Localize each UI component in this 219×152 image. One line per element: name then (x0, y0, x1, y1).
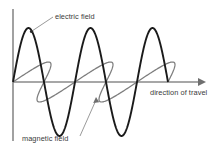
propagation-arrowhead (198, 78, 206, 86)
direction-of-travel-label: direction of travel (150, 88, 208, 97)
magnetic-field-leader-arrowhead (93, 97, 99, 103)
electric-field-leader-dot (30, 30, 33, 33)
electromagnetic-wave-figure: electric field magnetic field direction … (0, 0, 219, 152)
wave-diagram-canvas: electric field magnetic field direction … (0, 0, 219, 152)
magnetic-field-leader-line (80, 100, 96, 136)
magnetic-field-label: magnetic field (22, 134, 68, 143)
electric-field-label: electric field (55, 12, 95, 21)
electric-field-leader-line (32, 17, 53, 31)
